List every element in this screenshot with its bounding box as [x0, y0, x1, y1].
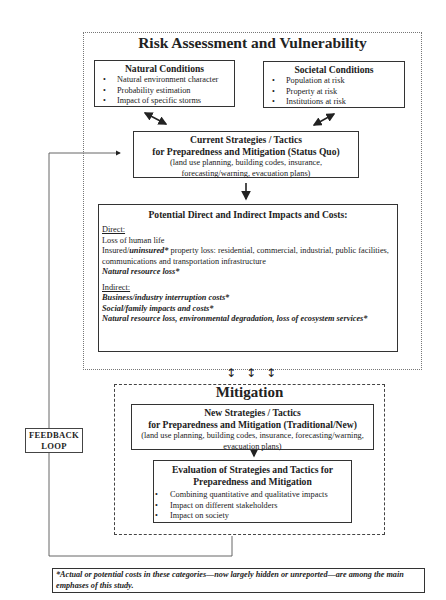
indirect-item: Natural resource loss, environmental deg…: [102, 314, 394, 325]
societal-conditions-box: Societal Conditions Population at risk P…: [263, 61, 405, 108]
mitigation-title: Mitigation: [114, 384, 385, 401]
evaluation-box: Evaluation of Strategies and Tactics for…: [153, 460, 352, 523]
natural-condition-item: Probability estimation: [95, 86, 234, 97]
property-uninsured-emphasis: uninsured*: [129, 246, 168, 255]
direct-item-property-loss: Insured/uninsured* property loss: reside…: [102, 246, 394, 267]
evaluation-item: Impact on society: [154, 511, 351, 522]
evaluation-item: Combining quantitative and qualitative i…: [154, 490, 351, 501]
feedback-loop-label: FEEDBACK LOOP: [25, 428, 83, 453]
indirect-item: Business/industry interruption costs*: [102, 293, 394, 304]
current-strategies-heading-1: Current Strategies / Tactics: [134, 134, 358, 146]
bidirectional-arrow-icon: ↕: [246, 366, 256, 382]
impacts-heading: Potential Direct and Indirect Impacts an…: [102, 209, 394, 221]
evaluation-heading-1: Evaluation of Strategies and Tactics for: [154, 464, 351, 476]
risk-assessment-title: Risk Assessment and Vulnerability: [83, 34, 422, 52]
new-strategies-detail-1: (land use planning, building codes, insu…: [132, 431, 373, 442]
societal-condition-item: Property at risk: [264, 87, 404, 98]
property-prefix: Insured/: [102, 246, 129, 255]
new-strategies-heading-1: New Strategies / Tactics: [132, 407, 373, 419]
indirect-item: Social/family impacts and costs*: [102, 304, 394, 315]
new-strategies-box: New Strategies / Tactics for Preparednes…: [131, 404, 374, 450]
footnote: *Actual or potential costs in these cate…: [52, 568, 425, 593]
new-strategies-detail-2: evacuation plans): [132, 442, 373, 453]
direct-item-loss-of-life: Loss of human life: [102, 236, 394, 247]
natural-conditions-box: Natural Conditions Natural environment c…: [94, 60, 235, 107]
societal-conditions-heading: Societal Conditions: [264, 64, 404, 76]
new-strategies-heading-2: for Preparedness and Mitigation (Traditi…: [132, 419, 373, 431]
current-strategies-detail-1: (land use planning, building codes, insu…: [134, 158, 358, 169]
direct-item-natural-resource: Natural resource loss*: [102, 267, 394, 278]
evaluation-item: Impact on different stakeholders: [154, 501, 351, 512]
direct-label: Direct:: [102, 225, 394, 236]
evaluation-heading-2: Preparedness and Mitigation: [154, 476, 351, 488]
current-strategies-box: Current Strategies / Tactics for Prepare…: [133, 131, 359, 178]
indirect-label: Indirect:: [102, 283, 394, 294]
impacts-box: Potential Direct and Indirect Impacts an…: [98, 204, 398, 352]
natural-condition-item: Impact of specific storms: [95, 96, 234, 107]
current-strategies-detail-2: forecasting/warning, evacuation plans): [134, 169, 358, 180]
societal-condition-item: Institutions at risk: [264, 97, 404, 108]
natural-conditions-heading: Natural Conditions: [95, 63, 234, 75]
current-strategies-heading-2: for Preparedness and Mitigation (Status …: [134, 146, 358, 158]
bidirectional-arrow-icon: ↕: [226, 366, 236, 382]
natural-condition-item: Natural environment character: [95, 75, 234, 86]
bidirectional-arrow-icon: ↕: [266, 366, 276, 382]
societal-condition-item: Population at risk: [264, 76, 404, 87]
feedback-loop-line2: LOOP: [26, 441, 82, 452]
feedback-loop-line1: FEEDBACK: [26, 430, 82, 441]
section-connector-arrows: ↕ ↕ ↕: [226, 366, 276, 382]
